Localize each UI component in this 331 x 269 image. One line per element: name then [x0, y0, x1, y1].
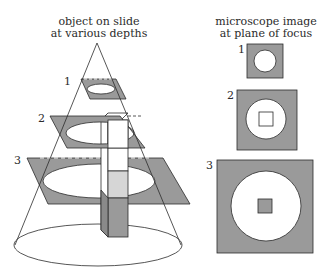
plane-2-label: 2: [38, 112, 45, 125]
plane-3-label: 3: [14, 154, 21, 167]
left-title-line2: at various depths: [51, 27, 148, 40]
image-3-label: 3: [206, 159, 213, 172]
microscope-focus-diagram: object on slide at various depths 3 2 1: [0, 0, 331, 269]
focus-image-1: 1: [238, 43, 283, 78]
plane-2: 2: [38, 112, 145, 148]
image-1-label: 1: [238, 43, 245, 56]
plane-1-label: 1: [64, 75, 71, 88]
focus-image-2: 2: [227, 89, 297, 150]
right-title-line2: at plane of focus: [220, 27, 313, 40]
focus-image-3: 3: [206, 159, 313, 253]
image-2-label: 2: [227, 89, 234, 102]
cone-base: [14, 224, 182, 266]
plane-1: 1: [64, 75, 126, 99]
